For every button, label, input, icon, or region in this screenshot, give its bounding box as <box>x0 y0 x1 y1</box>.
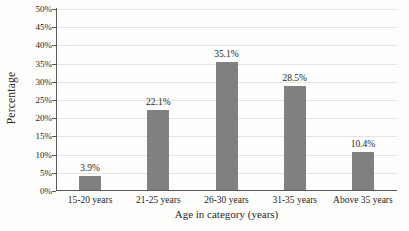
bar-slot: 28.5% <box>261 9 329 190</box>
bar-slot: 10.4% <box>329 9 397 190</box>
bar-chart-figure: Percentage 0%5%10%15%20%25%30%35%40%45%5… <box>0 0 409 231</box>
x-axis-line <box>56 190 397 191</box>
y-axis-tick-label: 5% <box>40 168 52 177</box>
x-axis-tick-labels: 15-20 years21-25 years26-30 years31-35 y… <box>56 193 397 207</box>
bar[interactable]: 10.4% <box>352 152 374 190</box>
y-axis-tick-label: 20% <box>36 114 53 123</box>
x-axis-tick-label: 15-20 years <box>56 193 124 207</box>
y-axis-title-text: Percentage <box>5 72 17 124</box>
plot-area: 3.9%22.1%35.1%28.5%10.4% <box>56 9 397 191</box>
y-axis-title: Percentage <box>0 0 22 196</box>
y-axis-tick-label: 15% <box>36 132 53 141</box>
bar[interactable]: 22.1% <box>147 110 169 190</box>
bar-slot: 3.9% <box>56 9 124 190</box>
x-axis-tick-label: Above 35 years <box>329 193 397 207</box>
x-axis-tick-label: 31-35 years <box>261 193 329 207</box>
bar-value-label: 10.4% <box>351 139 376 149</box>
y-axis-tick-mark <box>52 191 56 192</box>
x-axis-tick-label: 26-30 years <box>192 193 260 207</box>
x-axis-tick-label: 21-25 years <box>124 193 192 207</box>
y-axis-tick-label: 0% <box>40 187 52 196</box>
y-axis-tick-label: 35% <box>36 59 53 68</box>
bar-value-label: 28.5% <box>282 73 307 83</box>
y-axis-tick-label: 40% <box>36 41 53 50</box>
y-axis-tick-label: 25% <box>36 96 53 105</box>
bar[interactable]: 3.9% <box>79 176 101 190</box>
y-axis-tick-label: 30% <box>36 77 53 86</box>
bar-value-label: 3.9% <box>80 163 100 173</box>
bar-slot: 22.1% <box>124 9 192 190</box>
y-axis-tick-label: 50% <box>36 5 53 14</box>
y-axis-tick-label: 45% <box>36 23 53 32</box>
bar[interactable]: 28.5% <box>284 86 306 190</box>
bar-slot: 35.1% <box>192 9 260 190</box>
x-axis-title: Age in category (years) <box>56 208 397 220</box>
bar-value-label: 35.1% <box>214 49 239 59</box>
bars-series: 3.9%22.1%35.1%28.5%10.4% <box>56 9 397 190</box>
y-axis-tick-label: 10% <box>36 150 53 159</box>
bar-value-label: 22.1% <box>146 97 171 107</box>
y-axis-tick-labels: 0%5%10%15%20%25%30%35%40%45%50% <box>20 9 54 191</box>
bar[interactable]: 35.1% <box>216 62 238 190</box>
